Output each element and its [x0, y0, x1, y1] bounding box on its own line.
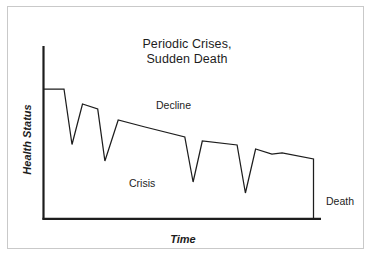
y-axis-label: Health Status [21, 94, 34, 184]
plot-area: Periodic Crises,Sudden Death Health Stat… [8, 7, 365, 250]
figure-frame: Periodic Crises,Sudden Death Health Stat… [7, 6, 364, 249]
annotation-death: Death [326, 195, 354, 207]
annotation-decline: Decline [156, 99, 191, 111]
annotation-crisis: Crisis [129, 177, 155, 189]
chart-title: Periodic Crises,Sudden Death [112, 37, 262, 67]
axes-group [42, 46, 321, 220]
x-axis-label: Time [138, 233, 228, 246]
chart-title-line-2: Sudden Death [146, 52, 227, 66]
chart-title-line-1: Periodic Crises, [142, 37, 231, 51]
